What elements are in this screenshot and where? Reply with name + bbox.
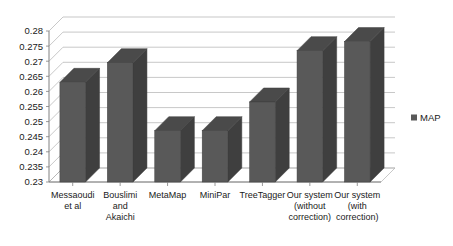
chart-container: 0.230.2350.240.2450.250.2550.260.2650.27… — [0, 0, 453, 246]
x-axis-category-label: correction) — [289, 212, 332, 222]
bar-group[interactable] — [155, 117, 195, 182]
x-axis-category-label: Akaichi — [106, 212, 135, 222]
x-axis-category-label: Messaoudi — [51, 190, 95, 200]
bar-front-face — [155, 131, 181, 182]
bar-side-face — [275, 88, 289, 182]
x-axis-category-label: Bouslimi — [103, 190, 137, 200]
y-axis-tick-label: 0.27 — [25, 56, 44, 67]
y-axis-tick-label: 0.24 — [25, 146, 44, 157]
gridline-depth-connector — [49, 47, 63, 61]
y-axis-tick-label: 0.265 — [19, 71, 43, 82]
x-axis-category-label: (with — [348, 201, 367, 211]
y-axis-tick-label: 0.275 — [19, 41, 43, 52]
x-axis-category-label: MiniPar — [200, 190, 231, 200]
y-axis-tick-label: 0.235 — [19, 161, 43, 172]
gridline-depth-connector — [49, 17, 63, 31]
bar-group[interactable] — [202, 117, 242, 182]
bar-group[interactable] — [250, 88, 290, 182]
x-axis-category-label: MetaMap — [149, 190, 187, 200]
bar-group[interactable] — [297, 37, 337, 182]
legend-label: MAP — [420, 112, 441, 123]
bar-front-face — [250, 102, 276, 182]
x-axis-category-label: Our system — [287, 190, 333, 200]
x-axis-category-label: and — [113, 201, 128, 211]
y-axis-tick-label: 0.255 — [19, 101, 43, 112]
x-axis-category-label: (without — [294, 201, 326, 211]
bar-group[interactable] — [60, 68, 100, 182]
y-axis-tick-label: 0.245 — [19, 131, 43, 142]
x-axis-category-label: et al — [64, 201, 81, 211]
bar-side-face — [370, 28, 384, 182]
gridline-depth-connector — [49, 62, 63, 76]
bar-side-face — [86, 68, 100, 182]
bar-front-face — [107, 63, 133, 182]
y-axis-tick-label: 0.28 — [25, 25, 44, 36]
y-axis-tick-label: 0.26 — [25, 86, 44, 97]
y-axis-tick-label: 0.23 — [25, 176, 44, 187]
bar-group[interactable] — [107, 49, 147, 182]
bar-front-face — [344, 42, 370, 182]
legend-swatch — [411, 115, 417, 121]
bar-front-face — [60, 82, 86, 182]
bar-side-face — [133, 49, 147, 182]
y-axis-tick-label: 0.25 — [25, 116, 44, 127]
x-axis-category-label: correction) — [336, 212, 379, 222]
x-axis-category-label: Our system — [334, 190, 380, 200]
bar-front-face — [202, 131, 228, 182]
bar-front-face — [297, 51, 323, 182]
bar-side-face — [323, 37, 337, 182]
x-axis-category-label: TreeTagger — [240, 190, 286, 200]
gridline-depth-connector — [49, 32, 63, 46]
bar-group[interactable] — [344, 28, 384, 182]
bar-chart-3d: 0.230.2350.240.2450.250.2550.260.2650.27… — [0, 0, 453, 246]
